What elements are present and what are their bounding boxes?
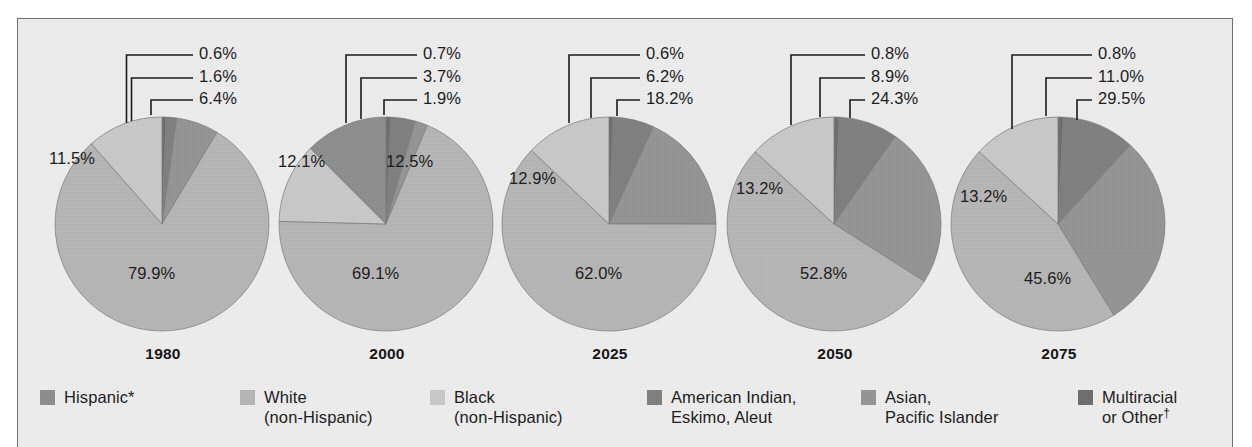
pie-svg-2000 (278, 116, 494, 332)
callout-label: 18.2% (646, 89, 693, 108)
callouts-2050: 0.8% 8.9% 24.3% (690, 19, 933, 139)
legend-label: Black(non-Hispanic) (454, 387, 563, 427)
pie-2025 (501, 116, 717, 332)
callout-label: 11.0% (1098, 67, 1144, 86)
legend-swatch-icon (1078, 390, 1093, 405)
legend-label: American Indian,Eskimo, Aleut (671, 387, 796, 427)
legend-label-line1: White (264, 388, 307, 406)
slice-label: 79.9% (128, 264, 175, 283)
legend: Hispanic* White(non-Hispanic) Black(non-… (18, 379, 1233, 447)
callout-label: 0.8% (871, 44, 909, 63)
legend-label-line1: American Indian, (671, 388, 796, 406)
legend-label: Hispanic* (64, 387, 135, 407)
callout-label: 6.2% (646, 67, 684, 86)
legend-label: White(non-Hispanic) (264, 387, 373, 427)
legend-item-hispanic[interactable]: Hispanic* (40, 387, 135, 407)
pie-chart-group-2000: 0.7% 3.7% 1.9% 12.1% 69.1% 12.5% 2000 (242, 19, 485, 379)
legend-label-line2: Eskimo, Aleut (671, 408, 772, 426)
legend-swatch-icon (430, 390, 445, 405)
slice-label: 69.1% (352, 264, 399, 283)
year-label-2075: 2075 (914, 345, 1204, 363)
callout-label: 3.7% (423, 67, 461, 86)
callout-label: 1.9% (423, 89, 461, 108)
pie-svg-2050 (726, 116, 942, 332)
pie-chart-group-2075: 0.8% 11.0% 29.5% 13.2% 45.6% 2075 (914, 19, 1157, 379)
legend-label-line2: (non-Hispanic) (264, 408, 373, 426)
pie-2050 (726, 116, 942, 332)
callout-label: 0.7% (423, 44, 461, 63)
legend-item-white[interactable]: White(non-Hispanic) (240, 387, 373, 427)
legend-label-line1: Multiracial (1102, 388, 1177, 406)
pie-chart-group-1980: 0.6% 1.6% 6.4% 11.5% 79.9% 1980 (18, 19, 261, 379)
pie-chart-group-2050: 0.8% 8.9% 24.3% 13.2% 52.8% 2050 (690, 19, 933, 379)
pie-chart-group-2025: 0.6% 6.2% 18.2% 12.9% 62.0% 2025 (465, 19, 708, 379)
callout-label: 0.8% (1098, 44, 1136, 63)
figure-panel: 0.6% 1.6% 6.4% 11.5% 79.9% 1980 0.7% 3.7… (17, 18, 1233, 447)
callout-label: 8.9% (871, 67, 909, 86)
legend-item-black[interactable]: Black(non-Hispanic) (430, 387, 563, 427)
legend-swatch-icon (647, 390, 662, 405)
pie-2075 (950, 116, 1166, 332)
slice-label: 52.8% (800, 264, 847, 283)
legend-label-line2: Pacific Islander (885, 408, 998, 426)
callouts-2000: 0.7% 3.7% 1.9% (242, 19, 485, 139)
slice-label: 12.5% (386, 152, 433, 171)
pie-svg-2025 (501, 116, 717, 332)
legend-item-american-indian[interactable]: American Indian,Eskimo, Aleut (647, 387, 796, 427)
legend-label-line2: (non-Hispanic) (454, 408, 563, 426)
legend-label: Multiracialor Other† (1102, 387, 1177, 427)
legend-label-line1: Black (454, 388, 495, 406)
legend-swatch-icon (40, 390, 55, 405)
slice-label: 12.9% (509, 169, 556, 188)
legend-item-multiracial[interactable]: Multiracialor Other† (1078, 387, 1177, 427)
pie-svg-2075 (950, 116, 1166, 332)
pie-2000 (278, 116, 494, 332)
slice-label: 45.6% (1024, 269, 1071, 288)
legend-swatch-icon (861, 390, 876, 405)
callouts-2075: 0.8% 11.0% 29.5% (914, 19, 1157, 139)
callout-label: 0.6% (199, 44, 237, 63)
legend-item-asian[interactable]: Asian,Pacific Islander (861, 387, 998, 427)
legend-swatch-icon (240, 390, 255, 405)
callout-label: 6.4% (199, 89, 237, 108)
slice-label: 11.5% (49, 149, 95, 168)
legend-dagger: † (1163, 406, 1170, 420)
legend-label: Asian,Pacific Islander (885, 387, 998, 427)
slice-label: 62.0% (575, 264, 622, 283)
legend-label-line2: or Other (1102, 408, 1163, 426)
legend-label-line1: Hispanic* (64, 388, 135, 406)
callout-label: 29.5% (1098, 89, 1145, 108)
callouts-2025: 0.6% 6.2% 18.2% (465, 19, 708, 139)
callout-label: 24.3% (871, 89, 918, 108)
panel-inner: 0.6% 1.6% 6.4% 11.5% 79.9% 1980 0.7% 3.7… (18, 19, 1232, 447)
callouts-1980: 0.6% 1.6% 6.4% (18, 19, 261, 139)
callout-label: 0.6% (646, 44, 684, 63)
slice-label: 12.1% (278, 152, 325, 171)
callout-label: 1.6% (199, 67, 237, 86)
legend-label-line1: Asian, (885, 388, 931, 406)
slice-label: 13.2% (960, 187, 1007, 206)
slice-label: 13.2% (736, 179, 783, 198)
